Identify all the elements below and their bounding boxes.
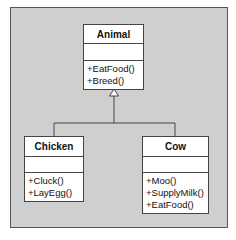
class-methods: +EatFood() +Breed() — [84, 61, 143, 89]
class-animal[interactable]: Animal +EatFood() +Breed() — [83, 24, 144, 90]
class-name: Chicken — [25, 137, 83, 157]
class-methods: +Cluck() +LayEgg() — [25, 173, 83, 201]
class-methods: +Moo() +SupplyMilk() +EatFood() — [143, 173, 208, 213]
class-attributes — [84, 44, 143, 61]
class-cow[interactable]: Cow +Moo() +SupplyMilk() +EatFood() — [142, 136, 209, 214]
method: +LayEgg() — [28, 187, 80, 199]
method: +EatFood() — [87, 63, 140, 75]
method: +Breed() — [87, 75, 140, 87]
class-attributes — [143, 157, 208, 173]
method: +SupplyMilk() — [146, 187, 205, 199]
class-attributes — [25, 157, 83, 173]
method: +EatFood() — [146, 199, 205, 211]
method: +Cluck() — [28, 175, 80, 187]
class-chicken[interactable]: Chicken +Cluck() +LayEgg() — [24, 136, 84, 202]
method: +Moo() — [146, 175, 205, 187]
generalization-arrow-icon — [110, 89, 119, 96]
class-name: Animal — [84, 25, 143, 44]
class-name: Cow — [143, 137, 208, 157]
